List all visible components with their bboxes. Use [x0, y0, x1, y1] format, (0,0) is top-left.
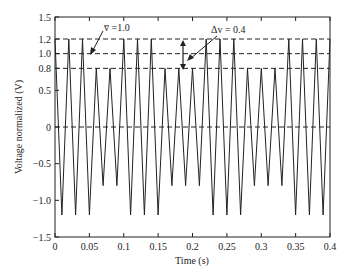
voltage-chart: 00.050.10.150.20.250.30.350.4 −1.5−1.0−0…: [0, 0, 348, 279]
reference-lines: [55, 39, 330, 127]
x-axis-ticks: 00.050.10.150.20.250.30.350.4: [53, 17, 337, 252]
x-tick-label: 0: [53, 241, 58, 252]
y-tick-label: 0.5: [39, 85, 52, 96]
y-tick-label: −1.5: [33, 232, 51, 243]
x-tick-label: 0.3: [255, 241, 268, 252]
arrowhead-icon: [187, 54, 194, 61]
x-tick-label: 0.25: [218, 241, 236, 252]
x-tick-label: 0.2: [186, 241, 199, 252]
x-tick-label: 0.4: [324, 241, 337, 252]
x-axis-title: Time (s): [175, 255, 209, 267]
annotation-delta-voltage: Δv = 0.4: [211, 24, 246, 35]
annotation-mean-voltage: v̅ =1.0: [104, 22, 130, 33]
x-tick-label: 0.35: [287, 241, 305, 252]
y-tick-label: 1.0: [39, 48, 52, 59]
y-tick-label: 0.8: [39, 63, 52, 74]
x-tick-label: 0.15: [149, 241, 167, 252]
y-tick-label: −0.5: [33, 158, 51, 169]
y-tick-label: 1.5: [39, 12, 52, 23]
y-tick-label: 0: [46, 122, 51, 133]
x-tick-label: 0.05: [81, 241, 99, 252]
y-axis-title: Voltage normalized (V): [13, 80, 25, 174]
y-tick-label: 1.2: [39, 34, 52, 45]
y-tick-label: −1.0: [33, 195, 51, 206]
arrow-down-icon: [180, 64, 186, 70]
arrow-up-icon: [180, 40, 186, 46]
x-tick-label: 0.1: [118, 241, 131, 252]
